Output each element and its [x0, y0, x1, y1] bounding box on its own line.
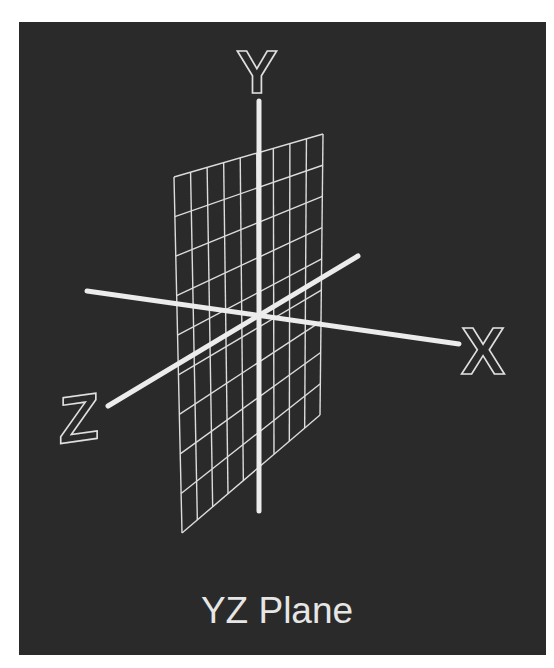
yz-plane-diagram: Y X Z [0, 0, 554, 668]
grid-line-horizontal [174, 134, 323, 177]
yz-grid [174, 134, 323, 533]
z-axis-label: Z [59, 378, 99, 457]
grid-line-vertical [207, 167, 213, 506]
grid-line-horizontal [176, 196, 323, 256]
figure-caption: YZ Plane [0, 591, 554, 631]
grid-line-vertical [174, 177, 182, 533]
grid-line-horizontal [178, 290, 321, 375]
grid-line-horizontal [175, 165, 323, 216]
grid-line-vertical [289, 144, 290, 442]
grid-line-horizontal [182, 415, 320, 533]
grid-line-vertical [191, 172, 198, 520]
grid-line-vertical [273, 148, 274, 454]
grid-line-vertical [240, 158, 243, 481]
grid-line-vertical [224, 163, 228, 494]
grid-line-horizontal [177, 228, 322, 296]
y-axis-label: Y [236, 37, 277, 106]
grid-line-vertical [305, 139, 307, 428]
x-axis-label: X [461, 314, 505, 388]
